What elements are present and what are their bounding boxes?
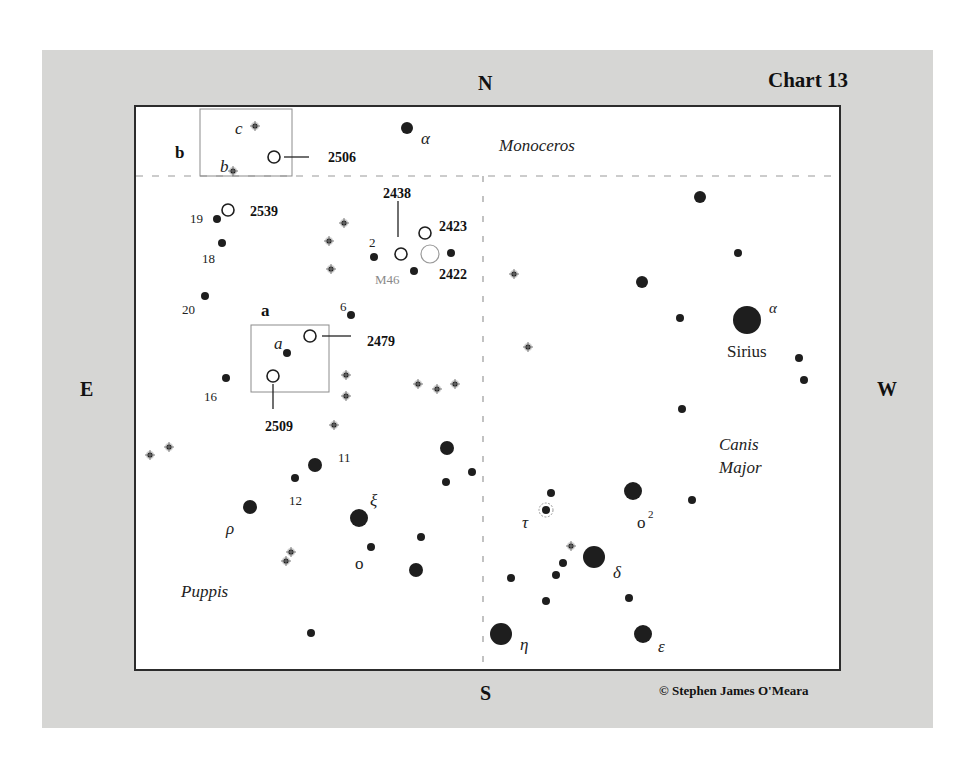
star-icon: [307, 629, 315, 637]
star-labels: αcb19182026a161112ρξoαSiriusτo2δηεMonoce…: [180, 119, 778, 656]
star-icon: [222, 374, 230, 382]
constellation-name: Monoceros: [498, 136, 575, 155]
double-star-icon: [228, 166, 238, 176]
star-label: 20: [182, 302, 195, 317]
double-star-icon: [432, 384, 442, 394]
star-label: a: [274, 334, 283, 353]
star-icon: [734, 249, 742, 257]
double-star-icon: [341, 370, 351, 380]
inset-box-a: [251, 325, 329, 392]
star-icon: [800, 376, 808, 384]
double-star-icon: [145, 450, 155, 460]
star-icon: [559, 559, 567, 567]
stars: [201, 122, 808, 645]
star-label: 12: [289, 493, 302, 508]
open-cluster-icon: [419, 227, 431, 239]
constellation-boundaries: [136, 176, 839, 669]
cluster-label: 2506: [328, 150, 356, 165]
open-cluster-icon: [222, 204, 234, 216]
star-icon: [218, 239, 226, 247]
star-icon: [624, 482, 642, 500]
star-icon: [636, 276, 648, 288]
open-cluster-icon: [268, 151, 280, 163]
star-icon: [367, 543, 375, 551]
variable-star-icon: [539, 503, 553, 517]
star-icon: [350, 509, 368, 527]
star-icon: [552, 571, 560, 579]
star-icon: [688, 496, 696, 504]
inset-box-b: [200, 109, 292, 176]
star-label: ε: [658, 637, 665, 656]
double-star-icon: [523, 342, 533, 352]
star-icon: [447, 249, 455, 257]
star-icon: [370, 253, 378, 261]
star-label: τ: [522, 513, 529, 532]
star-icon: [409, 563, 423, 577]
star-label: ρ: [225, 519, 234, 538]
star-label: 6: [340, 299, 347, 314]
cluster-label: 2539: [250, 204, 278, 219]
double-star-icon: [164, 442, 174, 452]
constellation-name: Canis: [719, 435, 759, 454]
double-star-icon: [509, 269, 519, 279]
star-icon: [410, 267, 418, 275]
constellation-name: Puppis: [180, 582, 229, 601]
double-star-icon: [450, 379, 460, 389]
star-icon: [201, 292, 209, 300]
star-label: ξ: [370, 491, 378, 510]
star-label: o: [355, 554, 364, 573]
star-label: 2: [369, 235, 376, 250]
star-label: c: [235, 119, 243, 138]
star-label: α: [769, 300, 778, 316]
star-icon: [243, 500, 257, 514]
constellation-name: Major: [718, 458, 762, 477]
star-label: α: [421, 129, 431, 148]
star-label: 19: [190, 211, 203, 226]
star-icon: [291, 474, 299, 482]
star-icon: [634, 625, 652, 643]
double-star-icon: [413, 379, 423, 389]
star-label: η: [520, 635, 528, 654]
open-cluster-icon: [267, 370, 279, 382]
double-star-icon: [281, 556, 291, 566]
star-icon: [694, 191, 706, 203]
star-icon: [442, 478, 450, 486]
cluster-label: 2479: [367, 334, 395, 349]
star-icon: [347, 311, 355, 319]
double-star-icon: [339, 218, 349, 228]
star-label: δ: [613, 563, 622, 582]
double-star-icon: [329, 420, 339, 430]
star-label: 2: [648, 508, 654, 520]
cluster-label: 2422: [439, 267, 467, 282]
open-cluster-icon: [395, 248, 407, 260]
star-icon: [547, 489, 555, 497]
cluster-label: 2423: [439, 219, 467, 234]
double-star-icon: [341, 391, 351, 401]
star-icon: [417, 533, 425, 541]
cluster-label: 2509: [265, 419, 293, 434]
star-icon: [507, 574, 515, 582]
star-icon: [283, 349, 291, 357]
star-icon: [490, 623, 512, 645]
double-star-icon: [324, 236, 334, 246]
double-star-icon: [286, 547, 296, 557]
star-icon: [401, 122, 413, 134]
inset-label-b: b: [175, 143, 184, 162]
star-icon: [468, 468, 476, 476]
star-icon: [676, 314, 684, 322]
open-cluster-icon: [421, 245, 439, 263]
star-icon: [583, 546, 605, 568]
star-label: 18: [202, 251, 215, 266]
star-icon: [625, 594, 633, 602]
star-icon: [733, 306, 761, 334]
star-label: Sirius: [727, 342, 767, 361]
open-cluster-icon: [304, 330, 316, 342]
star-label: 11: [338, 450, 351, 465]
star-icon: [542, 597, 550, 605]
star-icon: [795, 354, 803, 362]
star-map: ba 2506253924382423M46242224792509 αcb19…: [0, 0, 972, 762]
star-icon: [213, 215, 221, 223]
star-label: b: [220, 157, 229, 176]
inset-boxes: ba: [175, 109, 329, 392]
cluster-label: 2438: [383, 186, 411, 201]
